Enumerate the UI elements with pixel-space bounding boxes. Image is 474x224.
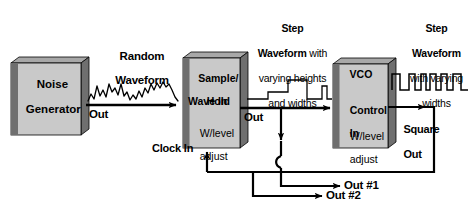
random-waveform-line-1: Random: [120, 50, 165, 62]
label-step-waveform-heights-widths: Step Waveform with varying heights and w…: [241, 10, 333, 121]
wire-out2-branch: [253, 172, 322, 196]
noise-generator-line-2: Generator: [26, 103, 81, 115]
vco-sub-1: W/level: [350, 130, 384, 142]
sample-hold-sub-2: adjust: [200, 150, 228, 162]
step-hw-line-3: varying heights: [259, 72, 327, 84]
random-waveform-line-2: Waveform: [115, 74, 169, 86]
sample-hold-sub-1: W/level: [200, 127, 234, 139]
sample-hold-sublabel: W/level adjust: [188, 117, 234, 174]
label-square-out: Square Out: [392, 110, 440, 173]
step-w-line-3: with varying: [410, 72, 463, 84]
diagram-canvas: Noise Generator Sample/ Hold Wave In W/l…: [0, 0, 474, 224]
label-noise-out: Out: [89, 108, 108, 120]
sample-hold-port-wave-in: Wave In: [188, 96, 227, 107]
vco-sub-2: adjust: [350, 153, 378, 165]
block-sample-hold-title: Sample/ Hold: [185, 62, 240, 119]
sample-hold-line-1: Sample/: [198, 72, 238, 84]
block-vco-title: VCO: [336, 69, 386, 80]
square-out-line-2: Out: [403, 148, 421, 160]
noise-generator-line-1: Noise: [37, 78, 68, 90]
label-out-2: Out #2: [326, 189, 361, 201]
step-w-line-4: widths: [422, 97, 451, 109]
step-hw-line-2-bold: Waveform: [258, 47, 307, 59]
square-out-line-1: Square: [403, 123, 439, 135]
vco-port-line-1: Control: [350, 104, 387, 116]
step-w-line-1: Step: [425, 22, 447, 34]
step-w-line-2: Waveform: [412, 47, 461, 59]
label-step-waveform-widths: Step Waveform with varying widths: [392, 10, 470, 121]
step-hw-line-4: and widths: [268, 97, 316, 109]
label-random-waveform: Random Waveform: [96, 38, 176, 98]
label-clock-in: Clock In: [152, 143, 193, 155]
step-hw-line-1: Step: [281, 22, 303, 34]
block-noise-generator-label: Noise Generator: [13, 66, 79, 128]
step-hw-line-2-reg: with: [307, 47, 328, 59]
label-sample-hold-out: Out: [244, 111, 263, 123]
vco-sublabel: W/level adjust: [338, 120, 384, 177]
